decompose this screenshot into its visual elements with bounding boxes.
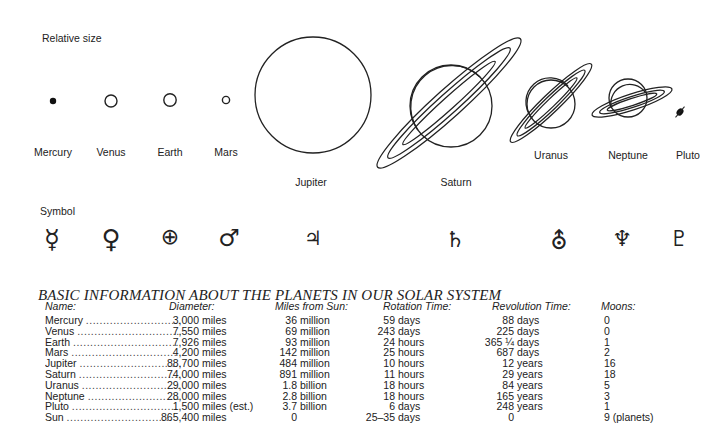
- mercury-drawing: [50, 98, 56, 104]
- table-row: Mercury ...............................3…: [0, 315, 702, 326]
- symbol-label: Symbol: [40, 205, 75, 217]
- label-mercury: Mercury: [34, 146, 72, 158]
- venus-symbol-icon: ♀: [101, 226, 120, 252]
- label-pluto: Pluto: [676, 149, 700, 161]
- diameter-value: 865,400: [150, 412, 199, 423]
- label-earth: Earth: [157, 146, 182, 158]
- header-name: Name:: [45, 300, 76, 312]
- table-row: Saturn ...............................74…: [0, 369, 702, 380]
- venus-drawing: [105, 95, 117, 107]
- moons-value: 9 (planets): [604, 412, 654, 423]
- table-row: Uranus ...............................29…: [0, 380, 702, 391]
- table-row: Neptune ...............................2…: [0, 391, 702, 402]
- table-row: Earth ...............................7,9…: [0, 337, 702, 348]
- jupiter-drawing: [255, 37, 371, 153]
- mercury-symbol-icon: ☿: [44, 226, 60, 252]
- mars-drawing: [222, 96, 229, 103]
- uranus-symbol-icon: ⛢: [550, 229, 568, 253]
- earth-drawing: [164, 94, 176, 106]
- table-row: Sun ...............................865,4…: [0, 412, 702, 423]
- table-row: Jupiter ...............................8…: [0, 358, 702, 369]
- relative-size-label: Relative size: [42, 32, 102, 44]
- saturn-symbol-icon: ♄: [445, 229, 465, 251]
- header-diameter: Diameter:: [169, 300, 215, 312]
- label-saturn: Saturn: [441, 176, 472, 188]
- earth-symbol-icon: ⊕: [161, 226, 179, 248]
- jupiter-symbol-icon: ♃: [304, 228, 322, 248]
- label-uranus: Uranus: [534, 149, 568, 161]
- table-row: Venus ...............................7,5…: [0, 326, 702, 337]
- distance-value: 0: [258, 412, 297, 423]
- label-venus: Venus: [96, 146, 125, 158]
- table-row: Mars ...............................4,20…: [0, 347, 702, 358]
- label-mars: Mars: [214, 146, 237, 158]
- mars-symbol-icon: ♂: [218, 226, 240, 250]
- saturn-drawing: [368, 28, 529, 177]
- neptune-symbol-icon: ♆: [612, 228, 632, 250]
- diameter-unit: miles: [202, 412, 227, 423]
- uranus-drawing: [504, 58, 597, 149]
- revolution-unit: years: [517, 401, 543, 412]
- rotation-value: 25–35: [360, 412, 395, 423]
- label-jupiter: Jupiter: [295, 176, 327, 188]
- label-neptune: Neptune: [608, 149, 648, 161]
- distance-unit: billion: [300, 401, 327, 412]
- header-rotation: Rotation Time:: [383, 300, 451, 312]
- header-moons: Moons:: [601, 300, 635, 312]
- planets-illustration: [0, 0, 702, 200]
- table-row: Pluto ...............................1,5…: [0, 401, 702, 412]
- rotation-unit: days: [398, 412, 420, 423]
- neptune-drawing: [590, 79, 675, 123]
- pluto-symbol-icon: ♇: [669, 228, 689, 250]
- revolution-value: 0: [470, 412, 514, 423]
- header-miles-from-sun: Miles from Sun:: [275, 300, 348, 312]
- header-revolution: Revolution Time:: [492, 300, 571, 312]
- pluto-drawing: [673, 105, 687, 120]
